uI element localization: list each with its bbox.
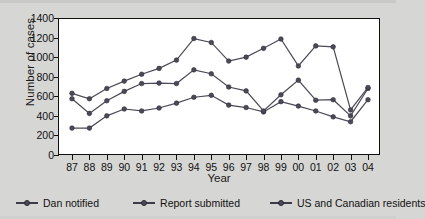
data-point [70,96,75,101]
data-point [157,66,162,71]
data-point [174,81,179,86]
x-tick-mark [142,155,143,160]
data-point [70,126,75,131]
data-point [139,81,144,86]
data-point [261,109,266,114]
data-point [105,114,110,119]
x-tick-mark [89,155,90,160]
data-point [122,79,127,84]
data-point [174,101,179,106]
data-point [192,36,197,41]
data-point [366,97,371,102]
legend-label: Report submitted [160,197,240,209]
data-point [331,97,336,102]
legend-marker-icon [270,198,292,208]
y-tick-label: 200 [8,130,54,141]
series-layer [58,18,380,155]
legend-item-report-submitted[interactable]: Report submitted [133,197,240,209]
data-point [244,105,249,110]
data-point [279,93,284,98]
series-line [72,70,368,116]
data-point [209,40,214,45]
data-point [348,119,353,124]
x-tick-mark [211,155,212,160]
series-dan-notified [70,93,371,130]
data-point [209,93,214,98]
x-tick-mark [281,155,282,160]
legend-label: Dan notified [43,197,99,209]
data-point [261,46,266,51]
series-report-submitted [70,68,371,119]
y-tick-label: 1400 [8,13,54,24]
data-point [157,81,162,86]
y-tick-label: 800 [8,72,54,83]
data-point [87,126,92,131]
x-tick-mark [298,155,299,160]
data-point [226,103,231,108]
y-tick-label: 1200 [8,33,54,44]
legend-marker-icon [16,198,38,208]
series-line [72,39,368,110]
page-edge-bottom [0,216,396,219]
x-tick-mark [72,155,73,160]
x-tick-mark [333,155,334,160]
data-point [244,55,249,60]
data-point [279,99,284,104]
legend-marker-icon [133,198,155,208]
x-tick-mark [159,155,160,160]
data-point [70,91,75,96]
x-tick-mark [264,155,265,160]
y-tick-label: 400 [8,111,54,122]
chart-legend: Dan notified Report submitted US and Can… [0,191,396,215]
x-tick-mark [368,155,369,160]
data-point [139,72,144,77]
data-point [122,89,127,94]
data-point [192,68,197,73]
data-point [105,86,110,91]
data-point [348,114,353,119]
data-point [209,71,214,76]
data-point [244,89,249,94]
data-point [139,109,144,114]
data-point [157,106,162,111]
x-tick-mark [176,155,177,160]
y-tick-label: 0 [8,150,54,161]
x-tick-mark [316,155,317,160]
data-point [296,104,301,109]
y-tick-label: 600 [8,91,54,102]
x-tick-mark [351,155,352,160]
y-axis-ticks: 1400120010008006004002000 [4,18,54,155]
data-point [192,95,197,100]
data-point [174,58,179,63]
data-point [313,109,318,114]
x-tick-mark [194,155,195,160]
data-point [313,44,318,49]
data-point [331,45,336,50]
data-point [313,98,318,103]
data-point [87,96,92,101]
data-point [348,108,353,113]
data-point [296,64,301,69]
data-point [122,107,127,112]
x-tick-mark [229,155,230,160]
x-axis-label: Year [58,172,380,184]
data-point [331,115,336,120]
line-chart: Number of cases 140012001000800600400200… [0,0,396,186]
x-tick-mark [124,155,125,160]
data-point [366,85,371,90]
data-point [87,111,92,116]
legend-item-dan-notified[interactable]: Dan notified [16,197,99,209]
x-tick-mark [246,155,247,160]
legend-item-us-and-canadian-residents[interactable]: US and Canadian residents [270,197,425,209]
x-tick-mark [107,155,108,160]
legend-label: US and Canadian residents [297,197,425,209]
data-point [226,59,231,64]
data-point [226,85,231,90]
y-tick-label: 1000 [8,52,54,63]
data-point [105,98,110,103]
data-point [279,37,284,42]
data-point [296,78,301,83]
